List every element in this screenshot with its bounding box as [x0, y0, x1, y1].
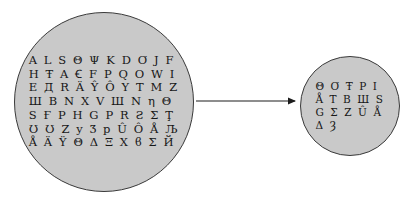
- target-set-circle: Θ Ơ Ŧ P I Å T B Ш S G Σ Z Û Å Δ Ȝ: [300, 56, 400, 156]
- source-symbol-row-3: E Д R Ä Ŷ Ô Y T M Z: [29, 81, 179, 95]
- source-set-circle: A L S Θ Ψ K D Ơ J F H Ŧ A Ꞓ F P Q O W I …: [14, 12, 194, 192]
- source-symbol-row-5: S Ғ P H G P R Ƨ Σ Ţ: [29, 109, 175, 123]
- source-symbol-row-2: H Ŧ A Ꞓ F P Q O W I: [29, 68, 176, 82]
- diagram-canvas: A L S Θ Ψ K D Ơ J F H Ŧ A Ꞓ F P Q O W I …: [0, 0, 409, 202]
- target-symbol-row-2: Å T B Ш S: [315, 93, 384, 106]
- source-symbol-row-6: Ʊ Ʊ Z y Ʒ p Û Ô Å Љ: [29, 123, 180, 137]
- target-symbol-grid: Θ Ơ Ŧ P I Å T B Ш S G Σ Z Û Å Δ Ȝ: [315, 80, 384, 133]
- target-symbol-row-3: G Σ Z Û Å: [315, 106, 382, 119]
- target-symbol-row-4: Δ Ȝ: [315, 119, 337, 132]
- target-symbol-row-1: Θ Ơ Ŧ P I: [315, 80, 378, 93]
- source-symbol-grid: A L S Θ Ψ K D Ơ J F H Ŧ A Ꞓ F P Q O W I …: [29, 54, 180, 150]
- source-symbol-row-4: Ш B N X V Ш N η Θ: [29, 95, 173, 109]
- source-symbol-row-7: Å Ä Ÿ Θ Δ Ξ X ϐ Σ Й: [29, 136, 175, 150]
- source-symbol-row-1: A L S Θ Ψ K D Ơ J F: [29, 54, 175, 68]
